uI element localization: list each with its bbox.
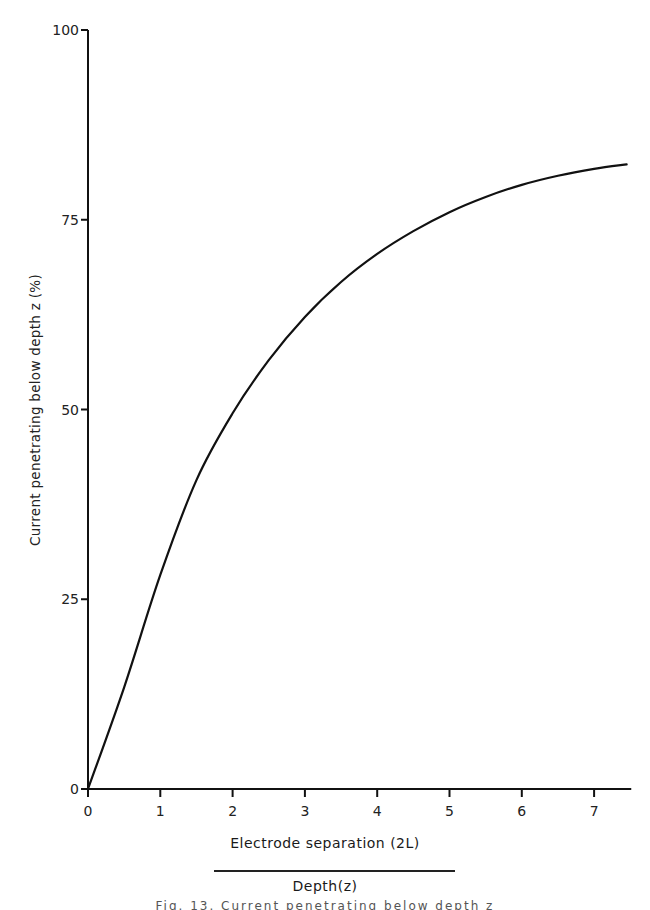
x-axis-title-denominator: Depth(z) (0, 876, 650, 895)
x-tick-label: 6 (517, 803, 526, 819)
y-tick-label: 25 (61, 591, 79, 607)
x-tick-label: 1 (156, 803, 165, 819)
y-tick-label: 75 (61, 212, 79, 228)
data-curve (88, 164, 627, 789)
y-axis-title: Current penetrating below depth z (%) (27, 274, 43, 546)
y-tick-label: 50 (61, 402, 79, 418)
x-axis-title-denominator-text: Depth(z) (293, 878, 358, 894)
x-tick-label: 5 (445, 803, 454, 819)
line-chart: 0255075100 01234567 Current penetrating … (0, 0, 650, 910)
x-tick-label: 2 (228, 803, 237, 819)
y-axis: 0255075100 (52, 22, 88, 797)
y-tick-label: 100 (52, 22, 79, 38)
x-axis-title-numerator: Electrode separation (2L) (0, 833, 650, 852)
y-tick-label: 0 (70, 781, 79, 797)
x-axis: 01234567 (82, 789, 631, 819)
x-tick-label: 0 (84, 803, 93, 819)
x-tick-label: 3 (300, 803, 309, 819)
x-tick-label: 4 (373, 803, 382, 819)
figure-caption: Fig. 13. Current penetrating below depth… (0, 899, 650, 910)
x-tick-label: 7 (590, 803, 599, 819)
x-axis-title-numerator-text: Electrode separation (2L) (230, 835, 420, 851)
fraction-bar (214, 870, 455, 872)
